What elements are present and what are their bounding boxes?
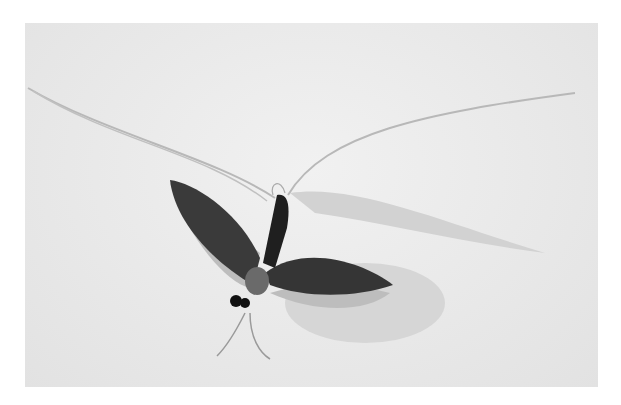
left-wing — [170, 180, 260, 285]
abdomen — [263, 195, 289, 268]
tail-shadow — [290, 191, 545, 253]
tail-clasper — [272, 184, 285, 195]
foreleg-right — [250, 313, 270, 359]
tail-filament-left-2 — [33, 91, 267, 201]
eye-left — [230, 295, 242, 307]
thorax — [245, 267, 269, 295]
mayfly-illustration — [25, 23, 598, 387]
tail-filament-right — [288, 93, 575, 195]
photograph — [25, 23, 598, 387]
foreleg-left — [217, 313, 245, 356]
eye-right — [240, 298, 250, 308]
